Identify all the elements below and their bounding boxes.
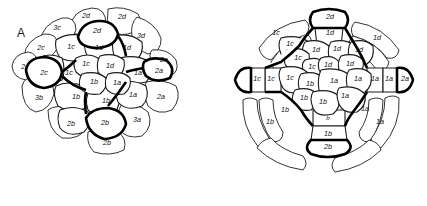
cell-label: 2a [156,92,165,101]
cell-label: 1d [333,44,342,53]
cell-label: 1b [90,77,98,86]
cell-label: 1a [376,117,384,126]
cell-label: 3a [133,115,141,124]
cell-label: 1c [308,62,316,71]
cell-label: 1a [341,91,349,100]
cell-label: 3b [35,93,43,102]
cell-label: 1c [267,74,275,83]
cell-label: 2b [102,138,111,147]
cell-label: 1b [266,117,274,126]
cell-label: 2c [39,68,48,77]
cell-label: 1b [306,79,314,88]
cell-label: 1a [354,74,362,83]
cell-label: 1c [65,68,73,77]
cell-label: 1d [326,28,335,37]
cell-label: 1d [373,33,382,42]
cell-label: 2b [100,118,109,127]
cell-label: 1d [123,43,132,52]
cell-label: 1c [294,53,302,62]
cell-label: 1b [102,96,110,105]
cell-label: 1c [286,73,294,82]
cell-label: 2b [66,119,75,128]
cell-label: 1c [286,39,294,48]
cell-label: 2d [325,12,335,21]
cell-label: 1a [129,90,137,99]
cell-label: 1b [281,105,289,114]
cell-label: 1a [134,68,142,77]
cell-label: 1a [385,74,393,83]
cell-label: 2d [92,26,102,35]
cell-label: 1d [324,60,333,69]
cell-label: 1c [67,42,75,51]
cell-label: 2d [81,11,91,20]
figure-root: A [0,0,427,206]
cell-label: 1d [95,43,104,52]
embryo-diagram-left: 2d2d3c2d3d2c1c1d1d2c1c1d2a2c1c1a2a1b1a3b… [0,0,213,206]
cell-label: 1d [106,61,115,70]
cell-label: 1c [253,74,261,83]
cell-label: 1a [371,74,379,83]
cell-label: 1a [330,76,338,85]
cell-label: 1a [361,104,369,113]
cell-label: 2c [20,62,29,71]
cell-label: 1b [324,129,332,138]
cell-label: 2a [154,66,163,75]
cell-label: 2b [323,142,332,151]
cell-label: 3d [137,31,146,40]
cell-label: 3c [53,23,61,32]
cell-label: 1d [312,45,321,54]
cell-label: 1a [113,78,121,87]
cell-label: b [326,114,330,121]
embryo-diagram-right: 2d1c1d1d1c1d1d1d1c1c1d1d1c1c1c1b1a1a1a1a… [213,0,427,206]
cell-label: 1b [319,97,327,106]
cell-label: 2a [159,55,168,64]
cell-label: 1b [72,92,80,101]
cell-label: 2a [400,74,409,83]
cell-label: 1d [355,45,364,54]
cell-label: 2d [117,12,127,21]
cell-label: 1d [346,59,355,68]
cell-label: 2c [36,43,45,52]
cell-label: 1b [300,93,308,102]
cell-label: 1c [272,28,280,37]
cell-label: 1c [82,59,90,68]
